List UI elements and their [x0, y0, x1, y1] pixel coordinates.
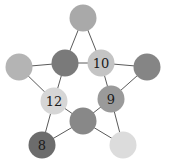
node-inner-right: 9: [98, 86, 125, 113]
node-circle: [70, 5, 97, 32]
nodes: 101298: [6, 5, 161, 159]
node-inner-left: 12: [41, 88, 68, 115]
node-top: [70, 5, 97, 32]
node-inner-top-right: 10: [88, 50, 115, 77]
node-label: 10: [93, 56, 110, 71]
node-outer-right: [134, 54, 161, 81]
node-outer-bottom-right: [110, 132, 137, 159]
node-inner-bottom: [70, 108, 97, 135]
node-circle: [6, 54, 33, 81]
pentagram-graph: 101298: [0, 0, 170, 168]
node-circle: [134, 54, 161, 81]
node-circle: [70, 108, 97, 135]
node-outer-bottom-left: 8: [29, 132, 56, 159]
node-circle: [52, 50, 79, 77]
node-inner-top-left: [52, 50, 79, 77]
node-label: 8: [38, 138, 46, 153]
node-circle: [110, 132, 137, 159]
node-label: 12: [46, 94, 63, 109]
node-label: 9: [107, 92, 115, 107]
node-outer-left: [6, 54, 33, 81]
